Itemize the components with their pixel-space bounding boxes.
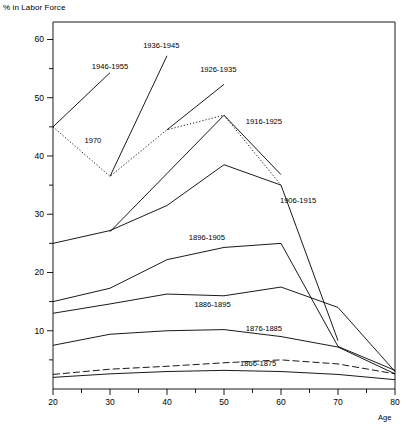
series-label-1906-1915: 1906-1915 [280, 196, 316, 205]
x-tick-label: 20 [48, 397, 58, 407]
series-label-1946-1955: 1946-1955 [92, 62, 128, 71]
axis-frame [53, 22, 395, 389]
y-tick-label: 20 [35, 267, 45, 277]
series-label-1916-1925: 1916-1925 [246, 117, 282, 126]
series-line-1926-1935 [167, 84, 224, 129]
series-line-1866-1875 [53, 360, 395, 375]
chart-container: % in Labor Force Age 1020304050602030405… [0, 0, 413, 436]
series-line-1916-1925 [110, 115, 281, 232]
series-label-1970: 1970 [84, 136, 101, 145]
x-tick-label: 40 [162, 397, 172, 407]
series-line-1876-1885 [53, 330, 395, 374]
series-label-1936-1945: 1936-1945 [143, 41, 179, 50]
series-label-1926-1935: 1926-1935 [200, 65, 236, 74]
y-tick-label: 10 [35, 326, 45, 336]
x-tick-label: 60 [276, 397, 286, 407]
series-line-baseline-lowest [53, 370, 395, 379]
x-tick-label: 30 [105, 397, 115, 407]
series-label-1866-1875: 1866-1875 [240, 359, 276, 368]
y-tick-label: 60 [35, 34, 45, 44]
series-label-1886-1895: 1886-1895 [194, 300, 230, 309]
x-tick-label: 80 [390, 397, 400, 407]
line-chart-plot: 102030405060203040506070801946-19551936-… [0, 0, 413, 436]
y-tick-label: 30 [35, 209, 45, 219]
series-label-1876-1885: 1876-1885 [246, 324, 282, 333]
series-line-1936-1945 [110, 56, 167, 177]
x-tick-label: 70 [333, 397, 343, 407]
x-tick-label: 50 [219, 397, 229, 407]
series-label-1896-1905: 1896-1905 [189, 233, 225, 242]
series-line-1906-1915 [53, 165, 338, 341]
y-tick-label: 40 [35, 151, 45, 161]
series-line-1946-1955 [53, 73, 110, 127]
y-tick-label: 50 [35, 93, 45, 103]
